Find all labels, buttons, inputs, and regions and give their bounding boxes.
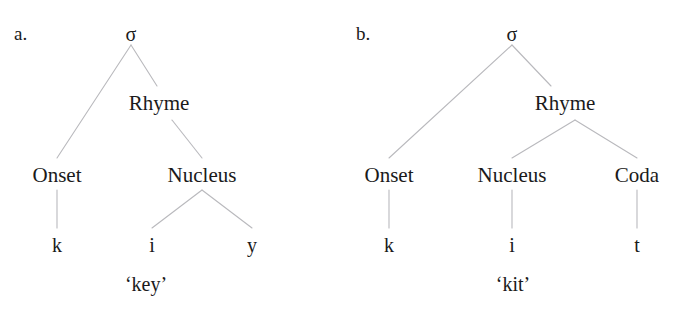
branch-a-rhyme-nucleus xyxy=(172,120,202,158)
clipped-header-fragment: — xyxy=(64,0,254,3)
branch-b-rhyme-coda xyxy=(575,120,637,158)
tree-branch-lines xyxy=(0,0,684,313)
tree-b-segment-t: t xyxy=(634,235,640,255)
branch-b-sigma-onset xyxy=(389,45,512,158)
tree-a-enumerator: a. xyxy=(14,24,27,43)
branch-a-sigma-onset xyxy=(57,45,131,158)
tree-b-rhyme-node: Rhyme xyxy=(535,93,596,114)
tree-b-gloss: ‘kit’ xyxy=(496,274,530,294)
branch-b-rhyme-nucleus xyxy=(512,120,575,158)
tree-b-coda-node: Coda xyxy=(615,165,659,186)
tree-b-segment-k: k xyxy=(384,235,394,255)
syllable-structure-figure: — xyxy=(0,0,684,313)
branch-b-sigma-rhyme xyxy=(512,45,551,86)
tree-b-sigma-node: σ xyxy=(507,24,518,44)
tree-b-segment-i: i xyxy=(509,235,515,255)
tree-a-onset-node: Onset xyxy=(33,165,82,186)
tree-a-sigma-node: σ xyxy=(126,24,137,44)
branch-a-nucleus-y xyxy=(202,190,252,228)
tree-a-segment-i: i xyxy=(149,235,155,255)
tree-a-segment-k: k xyxy=(52,235,62,255)
tree-a-nucleus-node: Nucleus xyxy=(168,165,237,186)
tree-a-segment-y: y xyxy=(247,235,257,255)
tree-a-rhyme-node: Rhyme xyxy=(129,93,190,114)
tree-b-nucleus-node: Nucleus xyxy=(478,165,547,186)
branch-a-nucleus-i xyxy=(152,190,202,228)
tree-b-enumerator: b. xyxy=(356,24,370,43)
tree-b-onset-node: Onset xyxy=(365,165,414,186)
tree-a-gloss: ‘key’ xyxy=(125,274,167,294)
branch-a-sigma-rhyme xyxy=(131,45,157,86)
